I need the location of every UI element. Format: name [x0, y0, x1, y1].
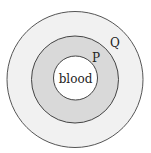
concentric-layers-diagram: Q P blood	[0, 0, 151, 153]
label-q: Q	[110, 36, 120, 50]
label-p: P	[92, 51, 100, 65]
label-blood: blood	[59, 72, 93, 86]
